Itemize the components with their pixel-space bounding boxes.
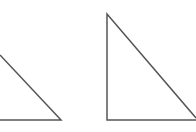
right-triangle-shape — [107, 14, 196, 120]
triangles-diagram — [0, 0, 196, 132]
left-triangle-shape — [0, 55, 61, 120]
